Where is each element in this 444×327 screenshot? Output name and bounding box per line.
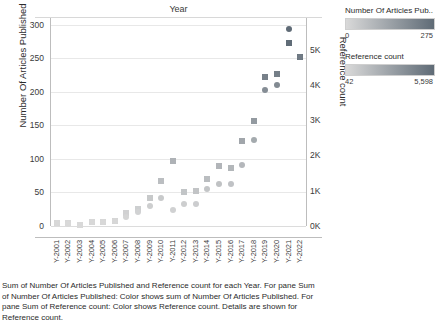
- data-point: [100, 219, 106, 225]
- legend-articles-gradient: [345, 18, 435, 30]
- chart-title: Year: [35, 2, 322, 16]
- x-axis-tick-label: Y-2012: [179, 240, 188, 263]
- x-axis-tick-label: Y-2017: [237, 240, 246, 263]
- x-axis-tick-label: Y-2022: [295, 240, 304, 263]
- data-point: [181, 189, 187, 195]
- legend-references-min: 42: [345, 77, 353, 86]
- data-point: [286, 40, 292, 46]
- legend-articles-max: 275: [420, 31, 433, 40]
- x-axis-tick-label: Y-2008: [133, 240, 142, 263]
- data-point: [123, 214, 129, 220]
- legend-references: Reference count 42 5,598: [345, 52, 441, 86]
- x-axis-tick-label: Y-2020: [272, 240, 281, 263]
- legend-articles-title: Number Of Articles Pub..: [345, 6, 441, 15]
- data-point: [181, 201, 187, 207]
- data-point: [89, 219, 95, 225]
- data-point: [228, 181, 234, 187]
- data-point: [239, 162, 245, 168]
- x-axis-tick-label: Y-2018: [249, 240, 258, 263]
- gridline: [51, 92, 306, 93]
- y-axis-left-tick: 200: [30, 87, 44, 97]
- legend-articles: Number Of Articles Pub.. 0 275: [345, 6, 441, 40]
- data-point: [228, 165, 234, 171]
- y-axis-left-tick: 100: [30, 154, 44, 164]
- x-axis-tick-label: Y-2013: [191, 240, 200, 263]
- x-axis-tick-label: Y-2014: [202, 240, 211, 263]
- x-axis-tick-label: Y-2002: [63, 240, 72, 263]
- data-point: [251, 137, 257, 143]
- data-point: [193, 201, 199, 207]
- data-point: [147, 195, 153, 201]
- legend-articles-scale: 0 275: [345, 31, 433, 40]
- data-point: [286, 26, 292, 32]
- x-axis-tick-label: Y-2005: [98, 240, 107, 263]
- y-axis-left-tick: 150: [30, 120, 44, 130]
- chart-screenshot: Year 300250200150100500 Number Of Articl…: [0, 0, 444, 327]
- x-axis-tick-label: Y-2011: [168, 240, 177, 262]
- y-axis-left-tick: 250: [30, 53, 44, 63]
- x-axis-tick-label: Y-2006: [110, 240, 119, 263]
- data-point: [193, 188, 199, 194]
- data-point: [216, 163, 222, 169]
- legend-references-title: Reference count: [345, 52, 441, 61]
- x-axis-tick-label: Y-2007: [121, 240, 130, 263]
- legend-references-max: 5,598: [414, 77, 433, 86]
- data-point: [54, 220, 60, 226]
- legend-references-gradient: [345, 64, 435, 76]
- data-point: [158, 178, 164, 184]
- x-axis-line: [35, 237, 322, 238]
- y-axis-right-tick: 5K: [310, 45, 320, 55]
- y-axis-left-title: Number Of Articles Published: [17, 0, 28, 141]
- legend-articles-min: 0: [345, 31, 349, 40]
- data-point: [251, 118, 257, 124]
- y-axis-right-tick: 0K: [310, 221, 320, 231]
- y-axis-left-tick: 0: [39, 221, 44, 231]
- legend-references-scale: 42 5,598: [345, 77, 433, 86]
- data-point: [274, 82, 280, 88]
- gridline: [51, 25, 306, 26]
- data-point: [297, 54, 303, 60]
- gridline: [51, 192, 306, 193]
- data-point: [216, 181, 222, 187]
- y-axis-right-tick: 3K: [310, 115, 320, 125]
- data-point: [239, 138, 245, 144]
- x-axis-tick-label: Y-2016: [226, 240, 235, 263]
- data-point: [65, 221, 71, 227]
- data-point: [135, 209, 141, 215]
- data-point: [147, 203, 153, 209]
- x-axis-tick-label: Y-2003: [75, 240, 84, 263]
- x-axis-tick-label: Y-2004: [87, 240, 96, 263]
- x-axis-tick-label: Y-2009: [145, 240, 154, 263]
- gridline: [51, 125, 306, 126]
- y-axis-left-tick: 300: [30, 20, 44, 30]
- x-axis-tick-label: Y-2001: [52, 240, 61, 263]
- x-axis-labels: Y-2001Y-2002Y-2003Y-2004Y-2005Y-2006Y-20…: [50, 240, 305, 278]
- data-point: [204, 186, 210, 192]
- y-axis-right-tick: 1K: [310, 186, 320, 196]
- data-point: [262, 87, 268, 93]
- y-axis-right: 5K4K3K2K1K0K: [308, 18, 334, 226]
- data-point: [158, 195, 164, 201]
- data-point: [77, 222, 83, 228]
- data-point: [112, 218, 118, 224]
- data-point: [262, 74, 268, 80]
- x-axis-tick-label: Y-2019: [260, 240, 269, 263]
- x-axis-tick-label: Y-2015: [214, 240, 223, 263]
- y-axis-right-tick: 4K: [310, 80, 320, 90]
- x-axis-tick-label: Y-2021: [284, 240, 293, 263]
- data-point: [170, 207, 176, 213]
- y-axis-left-tick: 50: [35, 187, 44, 197]
- gridline: [51, 58, 306, 59]
- y-axis-right-tick: 2K: [310, 150, 320, 160]
- chart-caption: Sum of Number Of Articles Published and …: [2, 281, 322, 323]
- chart-panel: Year 300250200150100500 Number Of Articl…: [0, 0, 340, 280]
- gridline: [51, 226, 306, 227]
- data-point: [170, 158, 176, 164]
- plot-area: [50, 18, 307, 226]
- data-point: [204, 176, 210, 182]
- data-point: [274, 71, 280, 77]
- gridline: [51, 159, 306, 160]
- legend: Number Of Articles Pub.. 0 275 Reference…: [345, 6, 441, 98]
- x-axis-tick-label: Y-2010: [156, 240, 165, 263]
